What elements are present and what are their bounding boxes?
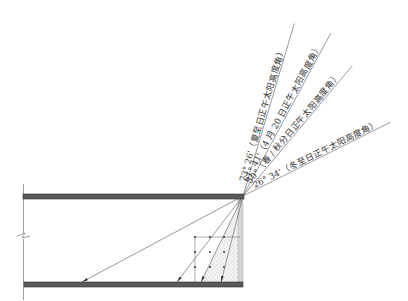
floor-slab — [24, 282, 243, 287]
ceiling-slab — [23, 194, 244, 199]
grid-dot — [194, 236, 196, 238]
grid-dot — [223, 251, 225, 253]
diagram-svg: 73° 26'（夏至日正午太阳高度角）61° 41'（4 月 20 日正午太阳高… — [0, 0, 408, 301]
grid-dot — [209, 251, 211, 253]
grid-dot — [209, 266, 211, 268]
grid-dot — [194, 266, 196, 268]
grid-dot — [194, 251, 196, 253]
sun-angle-diagram: 73° 26'（夏至日正午太阳高度角）61° 41'（4 月 20 日正午太阳高… — [0, 0, 408, 301]
